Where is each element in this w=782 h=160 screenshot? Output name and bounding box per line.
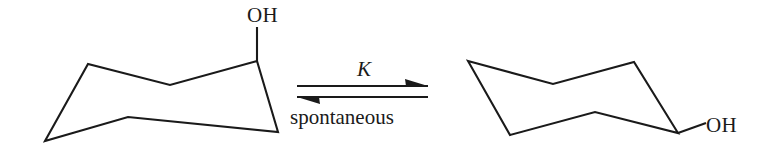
equilibrium-arrow-group: K spontaneous — [290, 57, 428, 129]
reaction-condition-label: spontaneous — [290, 105, 394, 129]
reaction-scheme: OH K spontaneous OH — [0, 0, 782, 160]
cyclohexane-ring-axial — [45, 61, 278, 141]
forward-arrowhead-icon — [405, 79, 428, 86]
reverse-arrowhead-icon — [297, 97, 320, 104]
product-structure: OH — [468, 61, 737, 137]
equatorial-oh-bond — [678, 123, 706, 133]
reactant-oh-label: OH — [247, 3, 278, 27]
product-oh-label: OH — [706, 113, 737, 137]
cyclohexane-ring-equatorial — [468, 61, 678, 135]
reaction-scheme-canvas: OH K spontaneous OH — [0, 0, 782, 160]
equilibrium-constant-label: K — [356, 57, 372, 81]
reactant-structure: OH — [45, 3, 278, 141]
